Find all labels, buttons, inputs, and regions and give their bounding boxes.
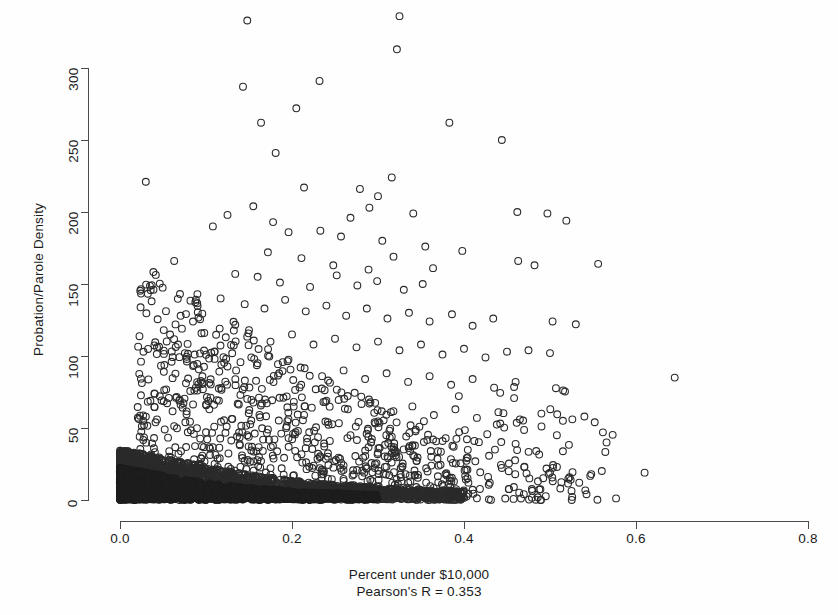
- pearson-r-annotation: Pearson's R = 0.353: [0, 583, 838, 600]
- x-tick-mark: [636, 521, 637, 529]
- y-tick-label: 300: [66, 68, 81, 91]
- scatter-plot-figure: 050100150200250300 Probation/Parole Dens…: [0, 0, 838, 615]
- y-tick-mark: [81, 356, 89, 357]
- x-tick-label: 0.8: [798, 531, 817, 546]
- plot-points-canvas: [0, 0, 838, 615]
- y-tick-mark: [81, 212, 89, 213]
- data-points-group: [116, 13, 678, 504]
- y-tick-label: 150: [66, 284, 81, 307]
- x-axis-caption: Percent under $10,000 Pearson's R = 0.35…: [0, 566, 838, 600]
- y-tick-label: 200: [66, 212, 81, 235]
- x-tick-mark: [464, 521, 465, 529]
- x-axis-title: Percent under $10,000: [0, 566, 838, 583]
- y-tick-label: 250: [66, 140, 81, 163]
- y-tick-label: 50: [66, 428, 81, 443]
- x-tick-mark: [808, 521, 809, 529]
- x-tick-mark: [120, 521, 121, 529]
- x-tick-label: 0.6: [626, 531, 645, 546]
- y-tick-mark: [81, 140, 89, 141]
- x-tick-label: 0.0: [110, 531, 129, 546]
- y-tick-label: 100: [66, 356, 81, 379]
- y-tick-mark: [81, 284, 89, 285]
- y-tick-mark: [81, 500, 89, 501]
- y-axis-title: Probation/Parole Density: [31, 150, 46, 410]
- y-tick-mark: [81, 68, 89, 69]
- x-tick-label: 0.4: [454, 531, 473, 546]
- x-tick-label: 0.2: [282, 531, 301, 546]
- y-tick-label: 0: [66, 500, 81, 508]
- scan-artifact-text: [0, 604, 838, 615]
- y-tick-mark: [81, 428, 89, 429]
- x-tick-mark: [292, 521, 293, 529]
